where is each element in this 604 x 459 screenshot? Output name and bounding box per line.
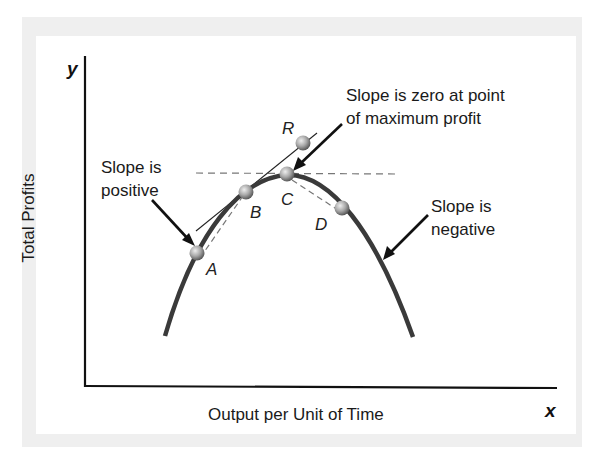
point-label-c: C	[281, 190, 293, 210]
point-a	[190, 246, 205, 261]
profit-curve-diagram	[0, 0, 604, 459]
x-axis-variable: x	[545, 400, 556, 422]
chord-dashed-a-b	[200, 196, 243, 258]
arrow-negative	[383, 215, 428, 260]
annotation-zero-line1: Slope is zero at point	[346, 86, 505, 105]
annotation-negative-line2: negative	[431, 220, 495, 239]
point-label-b: B	[250, 203, 261, 223]
point-d	[335, 201, 350, 216]
annotation-positive-line2: positive	[101, 181, 159, 200]
x-axis-label: Output per Unit of Time	[208, 405, 384, 425]
point-c	[280, 167, 295, 182]
y-axis-label: Total Profits	[19, 174, 39, 263]
y-axis-variable: y	[67, 58, 78, 80]
annotation-positive-line1: Slope is	[101, 158, 161, 177]
annotation-negative-line1: Slope is	[431, 197, 491, 216]
x-axis	[84, 386, 557, 388]
point-label-d: D	[315, 215, 327, 235]
point-label-r: R	[282, 119, 294, 139]
annotation-zero-line2: of maximum profit	[346, 109, 481, 128]
point-label-a: A	[206, 260, 217, 280]
arrow-positive	[152, 200, 195, 246]
point-r	[296, 136, 311, 151]
point-b	[239, 185, 254, 200]
